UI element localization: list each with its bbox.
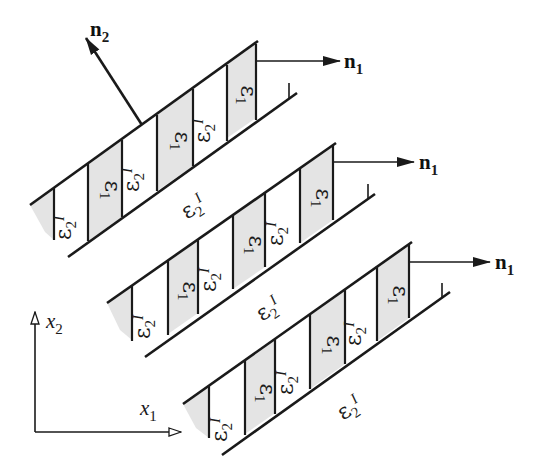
svg-text:ε2I: ε2I (273, 370, 301, 395)
band-label-eps2I-middle: ε2I (251, 291, 287, 328)
svg-text:ε2I: ε2I (263, 221, 291, 246)
label-eps2I: ε2I (273, 370, 301, 395)
label-eps2I: ε2I (51, 215, 79, 240)
svg-text:ε2I: ε2I (51, 215, 79, 240)
label-eps2I: ε2I (207, 417, 235, 442)
diagram-canvas: n2 n1 n1 n1 x2 x1 ε2I ε1 ε2I ε1 ε2I ε1 ε… (0, 0, 536, 473)
svg-text:ε2I: ε2I (190, 118, 218, 143)
svg-text:ε2I: ε2I (207, 417, 235, 442)
n1-label-middle: n1 (419, 150, 438, 178)
label-eps2I: ε2I (130, 314, 158, 339)
label-eps2I: ε2I (263, 221, 291, 246)
label-eps2I: ε2I (190, 118, 218, 143)
svg-text:ε2I: ε2I (119, 167, 147, 192)
x2-label: x2 (45, 309, 63, 337)
svg-text:ε2I: ε2I (176, 189, 212, 226)
band-label-eps2I-bottom: ε2I (332, 390, 368, 427)
x1-label: x1 (139, 396, 157, 424)
svg-text:ε2I: ε2I (332, 390, 368, 427)
n1-label-top: n1 (344, 49, 363, 77)
svg-text:ε2I: ε2I (130, 314, 158, 339)
n2-arrow (86, 38, 142, 125)
n1-label-bottom: n1 (495, 250, 514, 278)
svg-text:ε2I: ε2I (251, 291, 287, 328)
label-eps2I: ε2I (196, 267, 224, 292)
svg-text:ε2I: ε2I (196, 267, 224, 292)
coordinate-axes: x2 x1 (35, 309, 181, 432)
n2-label: n2 (90, 17, 109, 45)
laminate-diagram: n2 n1 n1 n1 x2 x1 ε2I ε1 ε2I ε1 ε2I ε1 ε… (0, 0, 536, 473)
band-label-eps2I-top: ε2I (176, 189, 212, 226)
label-eps2I: ε2I (119, 167, 147, 192)
